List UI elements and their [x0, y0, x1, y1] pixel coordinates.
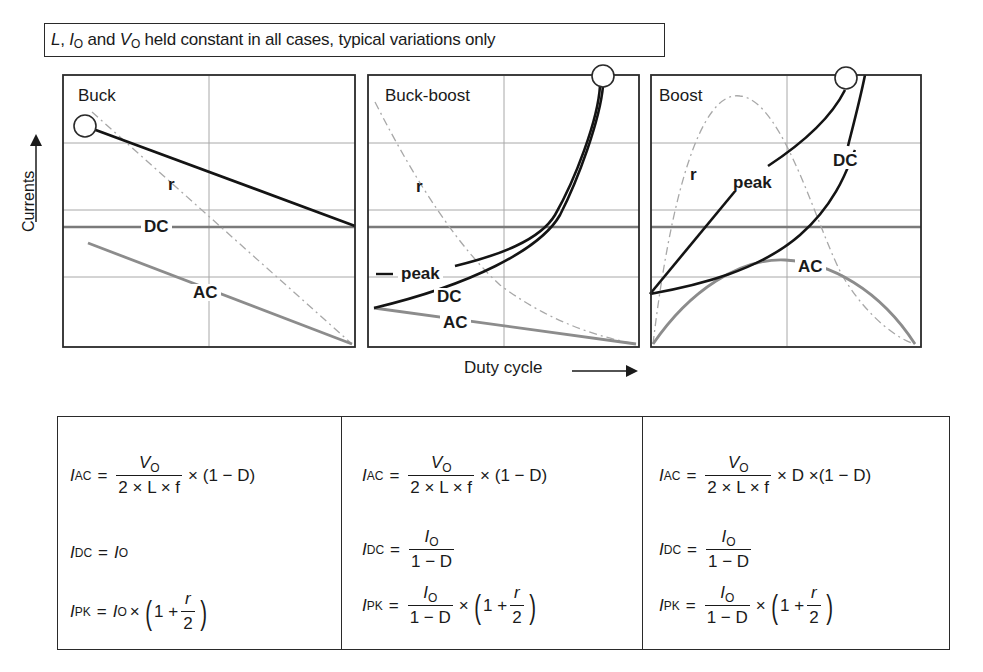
buck-label-dc: DC [141, 218, 172, 235]
equals: = [686, 596, 696, 616]
buck-i-pk-formula: IPK = IO × ( 1 + r 2 ) [70, 589, 209, 634]
num: V [139, 453, 150, 472]
equals: = [98, 543, 108, 563]
num: r [809, 583, 819, 605]
paren-inner: 1 + [780, 596, 804, 616]
panel-title-buck: Buck [78, 86, 116, 106]
num-sub: O [442, 461, 451, 475]
equals: = [97, 466, 107, 486]
boost-grid [651, 76, 921, 346]
den: 1 − D [705, 605, 750, 628]
x-axis-label: Duty cycle [464, 358, 542, 378]
buck-i-dc-formula: IDC = IO [70, 543, 128, 563]
formula-col-boost: IAC = VO 2 × L × f × D ×(1 − D) IDC = IO… [642, 417, 949, 649]
paren-left: ( [474, 589, 481, 623]
buck-boost-label-peak: peak [398, 265, 443, 282]
tail: × D ×(1 − D) [777, 466, 871, 486]
boost-i-ac-formula: IAC = VO 2 × L × f × D ×(1 − D) [659, 453, 871, 498]
buck-boost-label-ac: AC [440, 314, 471, 331]
tail: × (1 − D) [188, 466, 255, 486]
buck-boost-i-pk-formula: IPK = IO 1 − D × ( 1 + r 2 ) [362, 583, 538, 628]
fraction: IO 1 − D [409, 527, 454, 572]
buck-boost-label-dc: DC [434, 288, 465, 305]
den: 2 × L × f [116, 475, 182, 498]
fraction: IO 1 − D [705, 583, 750, 628]
den: 1 − D [408, 605, 453, 628]
mult: × [459, 596, 469, 616]
panel-title-boost: Boost [659, 86, 702, 106]
paren-inner: 1 + [154, 602, 178, 622]
num: r [183, 589, 193, 611]
fraction: r 2 [181, 589, 194, 634]
den: 2 [807, 605, 820, 628]
equals: = [389, 466, 399, 486]
num-sub: O [726, 535, 735, 549]
num: r [512, 583, 522, 605]
num: V [728, 453, 739, 472]
tail: × (1 − D) [480, 466, 547, 486]
x-axis-arrow-icon [572, 365, 638, 377]
current-plots [0, 0, 983, 400]
fraction: VO 2 × L × f [705, 453, 771, 498]
fraction: VO 2 × L × f [408, 453, 474, 498]
buck-boost-i-ac-formula: IAC = VO 2 × L × f × (1 − D) [362, 453, 547, 498]
buck-label-r: r [168, 176, 175, 193]
paren-inner: 1 + [483, 596, 507, 616]
equals: = [686, 466, 696, 486]
boost-i-pk-formula: IPK = IO 1 − D × ( 1 + r 2 ) [659, 583, 835, 628]
paren-left: ( [771, 589, 778, 623]
den: 2 × L × f [705, 475, 771, 498]
boost-label-ac: AC [795, 258, 826, 275]
mult: × [756, 596, 766, 616]
buck-boost-i-dc-formula: IDC = IO 1 − D [362, 527, 457, 572]
fraction: r 2 [510, 583, 523, 628]
paren-right: ) [826, 589, 833, 623]
paren-right: ) [200, 595, 207, 629]
boost-peak-marker-icon [835, 67, 857, 89]
fraction: VO 2 × L × f [116, 453, 182, 498]
buck-boost-ac-curve [374, 308, 636, 344]
num-sub: O [739, 461, 748, 475]
buck-boost-panel [368, 65, 639, 347]
fraction: IO 1 − D [408, 583, 453, 628]
buck-peak-curve [93, 129, 355, 226]
num-sub: O [429, 535, 438, 549]
buck-i-ac-formula: IAC = VO 2 × L × f × (1 − D) [70, 453, 255, 498]
mult: × [130, 602, 140, 622]
den: 2 [181, 611, 194, 634]
buck-boost-r-curve [375, 102, 636, 344]
equals: = [390, 540, 400, 560]
fraction: r 2 [807, 583, 820, 628]
buck-label-ac: AC [190, 284, 221, 301]
num-sub: O [725, 591, 734, 605]
equals: = [687, 540, 697, 560]
panel-title-buck-boost: Buck-boost [385, 86, 470, 106]
formula-col-buck: IAC = VO 2 × L × f × (1 − D) IDC = IO IP… [58, 417, 341, 649]
num-sub: O [428, 591, 437, 605]
paren-right: ) [529, 589, 536, 623]
den: 2 × L × f [408, 475, 474, 498]
formula-table: IAC = VO 2 × L × f × (1 − D) IDC = IO IP… [57, 416, 950, 650]
boost-label-dc: DC [830, 152, 861, 169]
buck-panel [63, 75, 355, 347]
equals: = [97, 602, 107, 622]
buck-boost-label-r: r [416, 178, 423, 195]
fraction: IO 1 − D [706, 527, 751, 572]
boost-panel [650, 67, 921, 347]
den: 2 [510, 605, 523, 628]
boost-r-curve [653, 96, 915, 344]
formula-col-buck-boost: IAC = VO 2 × L × f × (1 − D) IDC = IO 1 … [341, 417, 642, 649]
boost-ac-curve [653, 260, 915, 344]
buck-boost-peak-marker-icon [592, 65, 614, 87]
y-axis-label: Currents [20, 171, 38, 232]
equals: = [389, 596, 399, 616]
paren-left: ( [145, 595, 152, 629]
den: 1 − D [409, 549, 454, 572]
den: 1 − D [706, 549, 751, 572]
num-sub: O [150, 461, 159, 475]
boost-i-dc-formula: IDC = IO 1 − D [659, 527, 754, 572]
num: V [431, 453, 442, 472]
buck-peak-marker-icon [74, 115, 96, 137]
boost-label-r: r [690, 166, 697, 183]
boost-peak-curve-lower [650, 190, 736, 294]
